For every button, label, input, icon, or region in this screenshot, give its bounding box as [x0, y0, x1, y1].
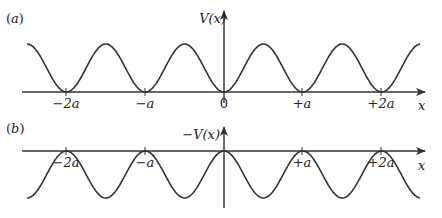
- svg-text:+2a: +2a: [368, 96, 395, 111]
- svg-text:−a: −a: [136, 155, 155, 170]
- y-axis-label: −V(x): [182, 127, 220, 142]
- svg-text:−2a: −2a: [53, 96, 80, 111]
- svg-text:+a: +a: [293, 155, 312, 170]
- periodic-potential-diagram: (a) V(x) x −2a −a 0 +a +2a (b): [0, 0, 442, 218]
- svg-text:+2a: +2a: [368, 155, 395, 170]
- panel-b-label: (b): [6, 121, 24, 136]
- svg-text:+a: +a: [293, 96, 312, 111]
- x-axis-label: x: [418, 98, 426, 113]
- svg-text:0: 0: [220, 96, 228, 111]
- tick-labels: −2a −a 0 +a +2a: [53, 96, 395, 111]
- x-axis-label: x: [418, 158, 426, 173]
- panel-a-label: (a): [6, 11, 24, 26]
- panel-b: (b) −V(x) x −2a −a +a +2a: [6, 121, 426, 208]
- svg-text:−a: −a: [136, 96, 155, 111]
- panel-a: (a) V(x) x −2a −a 0 +a +2a: [6, 11, 426, 113]
- y-axis-label: V(x): [199, 11, 226, 26]
- svg-text:−2a: −2a: [53, 155, 80, 170]
